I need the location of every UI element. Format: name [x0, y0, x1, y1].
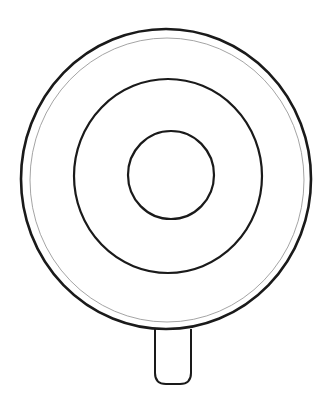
- lollipop-stick: [155, 329, 191, 384]
- lollipop-illustration: lollipop: [0, 0, 330, 408]
- candy-outer-circle: [21, 29, 311, 329]
- lollipop-drawing: [0, 0, 330, 408]
